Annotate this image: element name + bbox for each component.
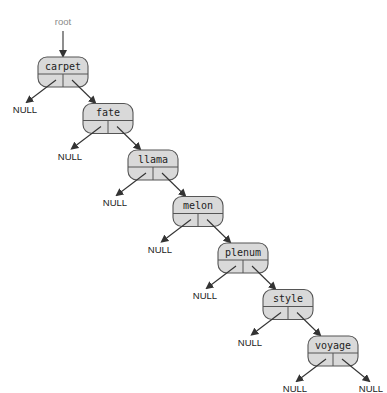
null-label: NULL xyxy=(283,383,307,393)
tree-node-melon: melonNULL xyxy=(148,197,230,255)
null-label: NULL xyxy=(58,151,82,162)
node-label: carpet xyxy=(45,61,81,72)
null-label: NULL xyxy=(13,104,37,115)
tree-node-style: styleNULL xyxy=(238,290,320,348)
tree-node-fate: fateNULL xyxy=(58,104,140,162)
node-label: style xyxy=(273,293,303,304)
node-label: voyage xyxy=(315,340,351,351)
root-label: root xyxy=(55,16,72,27)
null-label: NULL xyxy=(238,337,262,348)
tree-node-carpet: carpetNULL xyxy=(13,57,95,115)
node-label: melon xyxy=(183,200,213,211)
tree-node-voyage: voyageNULLNULL xyxy=(283,336,383,393)
null-label: NULL xyxy=(148,244,172,255)
node-label: plenum xyxy=(225,247,261,258)
node-label: llama xyxy=(138,154,168,165)
null-label: NULL xyxy=(359,383,383,393)
null-label: NULL xyxy=(103,197,127,208)
root-pointer: root xyxy=(55,16,72,56)
null-label: NULL xyxy=(193,290,217,301)
tree-diagram: root carpetNULLfateNULLllamaNULLmelonNUL… xyxy=(0,0,387,393)
node-label: fate xyxy=(96,107,120,118)
tree-node-llama: llamaNULL xyxy=(103,150,185,208)
tree-node-plenum: plenumNULL xyxy=(193,243,275,301)
